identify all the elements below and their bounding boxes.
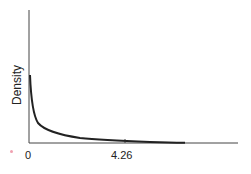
x-tick-label-4.26: 4.26: [111, 149, 132, 161]
y-axis-label: Density: [10, 60, 24, 110]
x-tick-label-0: 0: [25, 149, 31, 161]
density-curve: [30, 75, 185, 143]
density-plot: [0, 0, 251, 174]
decorative-dot: [10, 150, 13, 153]
